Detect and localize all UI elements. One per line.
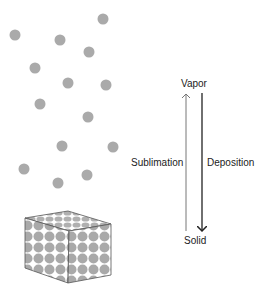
vapor-particle [101, 80, 112, 91]
vapor-particle [55, 35, 66, 46]
vapor-particle [98, 14, 109, 25]
vapor-particle [63, 78, 74, 89]
deposition-label: Deposition [207, 158, 254, 168]
solid-label: Solid [184, 236, 206, 246]
solid-cube-icon [25, 211, 111, 283]
vapor-particles [10, 14, 119, 189]
vapor-label: Vapor [181, 79, 207, 89]
vapor-particle [10, 30, 21, 41]
sublimation-label: Sublimation [131, 158, 183, 168]
vapor-particle [57, 141, 68, 152]
vapor-particle [108, 142, 119, 153]
vapor-particle [19, 164, 30, 175]
vapor-particle [84, 47, 95, 58]
vapor-particle [53, 178, 64, 189]
vapor-particle [30, 63, 41, 74]
diagram-svg [0, 0, 267, 291]
vapor-particle [82, 170, 93, 181]
diagram-canvas: Vapor Sublimation Deposition Solid [0, 0, 267, 291]
vapor-particle [83, 112, 94, 123]
vapor-particle [35, 99, 46, 110]
